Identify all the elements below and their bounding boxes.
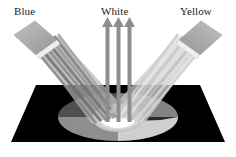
white-reflected-arrows: [102, 17, 135, 122]
scene-graphic: [0, 0, 236, 157]
illustration-canvas: Blue White Yellow: [0, 0, 236, 157]
label-yellow: Yellow: [180, 5, 212, 17]
label-blue: Blue: [14, 5, 35, 17]
label-white: White: [101, 5, 128, 17]
